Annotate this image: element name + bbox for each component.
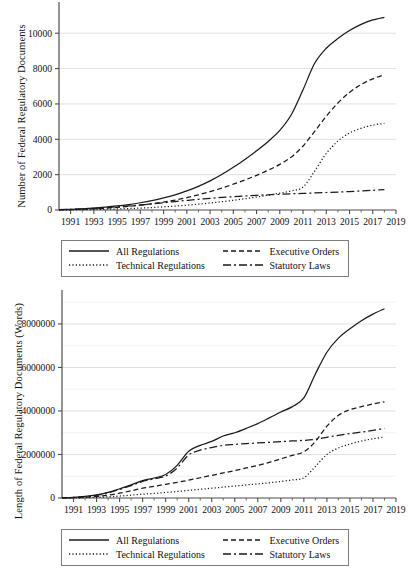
svg-text:2013: 2013	[317, 216, 336, 227]
legend-item-statutory-laws: Statutory Laws	[222, 549, 342, 560]
svg-text:2015: 2015	[340, 504, 359, 515]
legend-label-technical-regulations: Technical Regulations	[116, 260, 205, 271]
svg-text:1993: 1993	[87, 504, 106, 515]
legend-label-all-regulations: All Regulations	[116, 246, 179, 257]
svg-text:2009: 2009	[271, 504, 290, 515]
series-line-all-regulations	[59, 17, 384, 209]
legend-swatch-dotted-icon	[68, 260, 110, 270]
legend-label-statutory-laws: Statutory Laws	[270, 549, 331, 560]
legend-item-executive-orders: Executive Orders	[222, 535, 342, 546]
svg-text:2019: 2019	[386, 504, 405, 515]
series-line-all-regulations	[62, 309, 384, 498]
series-line-executive-orders	[62, 402, 384, 498]
legend-swatch-dashdot-icon	[222, 260, 264, 270]
svg-text:1995: 1995	[108, 216, 127, 227]
legend-item-executive-orders: Executive Orders	[222, 246, 342, 257]
legend-item-all-regulations: All Regulations	[68, 535, 222, 546]
legend-label-all-regulations: All Regulations	[116, 535, 179, 546]
svg-text:2009: 2009	[270, 216, 289, 227]
svg-text:2000: 2000	[33, 169, 52, 180]
legend-swatch-dotted-icon	[68, 549, 110, 559]
length-chart-figure: Length of Federal Regulatory Documents (…	[0, 288, 410, 576]
series-line-technical-regulations	[62, 437, 384, 498]
svg-text:0: 0	[50, 492, 55, 503]
svg-text:2017: 2017	[363, 216, 382, 227]
svg-text:2005: 2005	[225, 504, 244, 515]
svg-text:8000: 8000	[33, 63, 52, 74]
svg-text:4000: 4000	[33, 134, 52, 145]
legend-swatch-dashed-icon	[222, 246, 264, 256]
count-chart-panel: Number of Federal Regulatory Documents 0…	[0, 0, 410, 240]
legend-label-technical-regulations: Technical Regulations	[116, 549, 205, 560]
length-chart-plot: 0200000040000006000000800000019911993199…	[0, 288, 410, 528]
svg-text:1993: 1993	[84, 216, 103, 227]
svg-text:2017: 2017	[363, 504, 382, 515]
svg-text:4000000: 4000000	[21, 405, 55, 416]
svg-text:2003: 2003	[202, 504, 221, 515]
legend-label-statutory-laws: Statutory Laws	[270, 260, 331, 271]
svg-text:2007: 2007	[248, 504, 267, 515]
svg-text:1997: 1997	[131, 216, 150, 227]
svg-text:8000000: 8000000	[21, 318, 55, 329]
svg-text:2011: 2011	[294, 504, 313, 515]
legend-item-all-regulations: All Regulations	[68, 246, 222, 257]
svg-text:10000: 10000	[28, 28, 52, 39]
legend-swatch-dashdot-icon	[222, 549, 264, 559]
count-chart-plot: 0200040006000800010000199119931995199719…	[0, 0, 410, 240]
svg-text:2001: 2001	[179, 504, 198, 515]
svg-text:2011: 2011	[294, 216, 313, 227]
svg-text:1999: 1999	[156, 504, 175, 515]
svg-text:2019: 2019	[386, 216, 405, 227]
svg-text:1999: 1999	[154, 216, 173, 227]
series-line-executive-orders	[59, 75, 384, 210]
svg-text:1995: 1995	[110, 504, 129, 515]
svg-text:6000000: 6000000	[21, 362, 55, 373]
svg-text:2003: 2003	[200, 216, 219, 227]
legend-label-executive-orders: Executive Orders	[270, 535, 340, 546]
length-chart-legend: All Regulations Executive Orders Technic…	[0, 529, 410, 566]
count-chart-legend: All Regulations Executive Orders Technic…	[0, 240, 410, 277]
svg-text:1997: 1997	[133, 504, 152, 515]
svg-text:0: 0	[47, 204, 52, 215]
count-chart-figure: Number of Federal Regulatory Documents 0…	[0, 0, 410, 288]
svg-text:2001: 2001	[177, 216, 196, 227]
legend-swatch-dashed-icon	[222, 535, 264, 545]
svg-text:2013: 2013	[317, 504, 336, 515]
svg-text:2005: 2005	[224, 216, 243, 227]
svg-text:1991: 1991	[64, 504, 83, 515]
legend-swatch-solid-icon	[68, 246, 110, 256]
svg-text:2000000: 2000000	[21, 449, 55, 460]
legend-swatch-solid-icon	[68, 535, 110, 545]
svg-text:6000: 6000	[33, 98, 52, 109]
length-chart-panel: Length of Federal Regulatory Documents (…	[0, 288, 410, 528]
svg-text:2007: 2007	[247, 216, 266, 227]
legend-item-technical-regulations: Technical Regulations	[68, 549, 222, 560]
svg-text:2015: 2015	[340, 216, 359, 227]
svg-text:1991: 1991	[61, 216, 80, 227]
series-line-statutory-laws	[62, 428, 384, 497]
legend-item-technical-regulations: Technical Regulations	[68, 260, 222, 271]
legend-item-statutory-laws: Statutory Laws	[222, 260, 342, 271]
legend-label-executive-orders: Executive Orders	[270, 246, 340, 257]
